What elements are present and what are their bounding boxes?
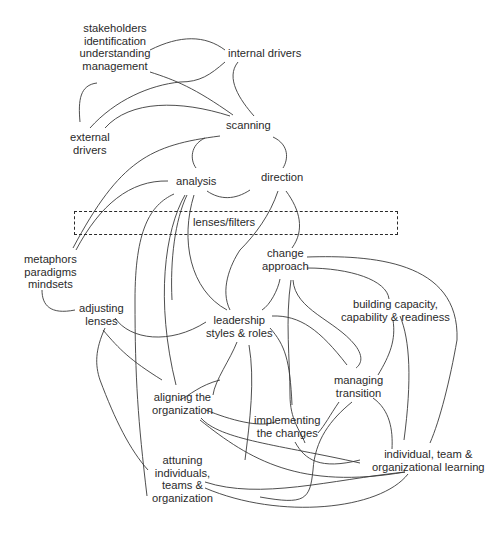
- node-aligning: aligning the organization: [152, 391, 213, 416]
- node-managing-transition: managing transition: [334, 374, 383, 399]
- node-learning: individual, team & organizational learni…: [372, 448, 485, 473]
- node-analysis: analysis: [176, 175, 216, 188]
- node-change-approach: change approach: [262, 247, 309, 272]
- node-direction: direction: [261, 171, 303, 184]
- node-leadership: leadership styles & roles: [206, 314, 273, 339]
- node-scanning: scanning: [226, 119, 271, 132]
- node-internal-drivers: internal drivers: [228, 47, 301, 60]
- node-attuning: attuning individuals, teams & organizati…: [152, 454, 213, 504]
- node-building-capacity: building capacity, capability & readines…: [341, 298, 450, 323]
- concept-map-diagram: stakeholders identification understandin…: [0, 0, 497, 533]
- node-external-drivers: external drivers: [70, 131, 110, 156]
- node-lenses-filters: lenses/filters: [193, 216, 255, 229]
- node-implementing: implementing the changes: [254, 414, 321, 439]
- node-adjusting-lenses: adjusting lenses: [79, 302, 124, 327]
- node-stakeholders: stakeholders identification understandin…: [74, 22, 156, 72]
- node-metaphors: metaphors paradigms mindsets: [24, 253, 77, 291]
